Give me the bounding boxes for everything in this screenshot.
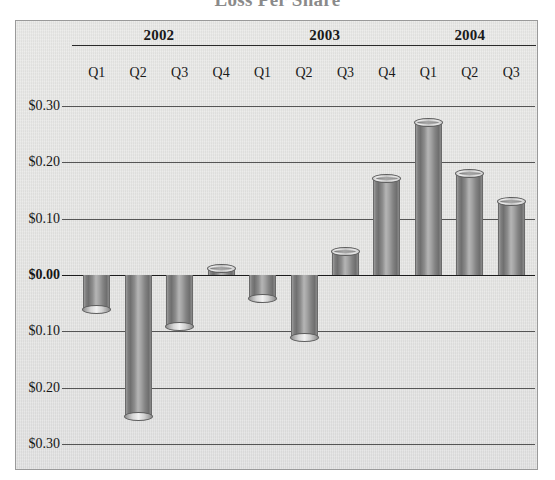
bar-body [291, 275, 318, 337]
bar-2003-q1 [249, 275, 276, 298]
bar-2004-q1 [415, 123, 442, 275]
cylinder-inner-well [334, 250, 356, 253]
bar-2002-q4 [208, 269, 235, 275]
bar-2004-q2 [456, 174, 483, 275]
cylinder-inner-well [376, 177, 398, 180]
bar-2002-q3 [166, 275, 193, 326]
page-title: Loss Per Share [0, 0, 555, 11]
cylinder-inner-well [417, 121, 439, 124]
cylinder-inner-well [459, 172, 481, 175]
bar-body [415, 123, 442, 275]
cylinder-bottom-cap [248, 294, 277, 303]
bar-body [373, 179, 400, 275]
cylinder-top-cap [414, 118, 443, 127]
bar-2003-q4 [373, 179, 400, 275]
bar-2003-q2 [291, 275, 318, 337]
cylinder-bottom-cap [290, 333, 319, 342]
bar-body [83, 275, 110, 309]
bar-body [166, 275, 193, 326]
cylinder-top-cap [455, 169, 484, 178]
bar-2002-q2 [125, 275, 152, 416]
bar-body [125, 275, 152, 416]
cylinder-bottom-cap [124, 412, 153, 421]
bar-body [498, 202, 525, 275]
cylinder-bottom-cap [82, 305, 111, 314]
cylinder-bottom-cap [165, 322, 194, 331]
cylinder-top-cap [497, 197, 526, 206]
bar-2004-q3 [498, 202, 525, 275]
chart-plot-panel: 200220032004Q1Q2Q3Q4Q1Q2Q3Q4Q1Q2Q3 $0.30… [15, 20, 538, 470]
bar-2003-q3 [332, 252, 359, 275]
bar-2002-q1 [83, 275, 110, 309]
chart-page: Loss Per Share 200220032004Q1Q2Q3Q4Q1Q2Q… [0, 0, 555, 480]
bars-layer [16, 21, 537, 469]
cylinder-inner-well [210, 267, 232, 270]
cylinder-inner-well [500, 200, 522, 203]
bar-body [456, 174, 483, 275]
